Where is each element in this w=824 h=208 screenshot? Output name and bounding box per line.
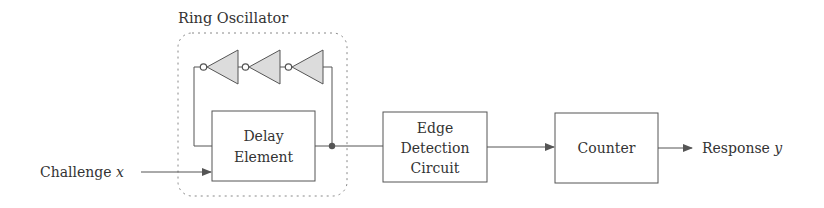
counter-block: Counter (555, 113, 658, 183)
response-text: Response (702, 140, 770, 156)
edge-detection-label-line2: Detection (401, 140, 470, 156)
inverter-3-icon (285, 50, 323, 84)
edge-detection-label-line1: Edge (417, 120, 453, 136)
inverter-chain (200, 50, 323, 84)
challenge-label: Challenge x (40, 164, 124, 180)
edge-detection-label-line3: Circuit (411, 160, 460, 176)
delay-element-label-line2: Element (234, 149, 294, 165)
response-label: Response y (702, 140, 783, 156)
ring-oscillator-puf-diagram: Ring Oscillator Delay Element Challenge … (0, 0, 824, 208)
counter-label: Counter (578, 140, 636, 156)
challenge-text: Challenge (40, 164, 112, 180)
edge-detection-block: Edge Detection Circuit (383, 112, 487, 182)
junction-dot (329, 143, 335, 149)
inverter-1-icon (200, 50, 238, 84)
inverter-2-icon (242, 50, 280, 84)
feedback-wire-right (323, 67, 332, 146)
challenge-variable: x (116, 164, 124, 180)
delay-element-block: Delay Element (212, 111, 315, 181)
ring-oscillator-title: Ring Oscillator (178, 10, 288, 26)
feedback-wire-left (194, 67, 212, 146)
response-variable: y (773, 140, 783, 156)
delay-element-label-line1: Delay (243, 128, 283, 144)
